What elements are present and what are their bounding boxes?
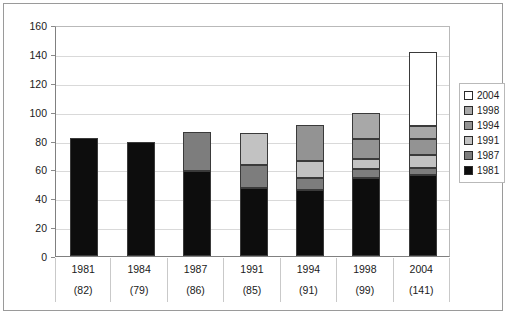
- bar-segment-1991[interactable]: [240, 133, 268, 165]
- plot-area: [55, 26, 450, 257]
- y-axis-tick-label: 80: [13, 137, 47, 148]
- y-axis-tick-label: 0: [13, 252, 47, 263]
- bar-column[interactable]: [296, 25, 324, 256]
- legend-swatch-icon: [464, 166, 473, 175]
- y-axis-tick-label: 140: [13, 50, 47, 61]
- y-axis-tick-label: 20: [13, 223, 47, 234]
- legend-label: 1994: [477, 121, 499, 131]
- x-axis-category-table: 1981(82)1984(79)1987(86)1991(85)1994(91)…: [55, 258, 451, 302]
- bar-segment-1981[interactable]: [296, 190, 324, 256]
- y-axis-tick-label: 120: [13, 79, 47, 90]
- bar-column[interactable]: [240, 25, 268, 256]
- legend-label: 2004: [477, 91, 499, 101]
- legend-swatch-icon: [464, 121, 473, 130]
- bar-segment-1994[interactable]: [296, 125, 324, 161]
- legend-label: 1987: [477, 151, 499, 161]
- y-axis-tick-label: 160: [13, 21, 47, 32]
- bar-segment-1987[interactable]: [240, 165, 268, 188]
- chart-frame: 020406080100120140160 1981(82)1984(79)19…: [3, 3, 503, 311]
- bar-segment-1991[interactable]: [409, 155, 437, 168]
- x-axis-category-cell: 1984(79): [111, 258, 167, 302]
- bar-segment-1998[interactable]: [352, 113, 380, 139]
- x-axis-category-cell: 1994(91): [281, 258, 337, 302]
- bar-segment-1981[interactable]: [70, 138, 98, 256]
- bar-column[interactable]: [127, 25, 155, 256]
- bar-segment-1981[interactable]: [183, 171, 211, 256]
- bar-segment-1981[interactable]: [127, 142, 155, 256]
- x-axis-total-label: (85): [224, 284, 279, 296]
- bar-segment-1998[interactable]: [409, 126, 437, 139]
- x-axis-total-label: (82): [56, 284, 110, 296]
- bar-column[interactable]: [409, 25, 437, 256]
- x-axis-total-label: (141): [394, 284, 449, 296]
- bar-segment-2004[interactable]: [409, 52, 437, 126]
- y-axis-tick-label: 60: [13, 165, 47, 176]
- bar-segment-1991[interactable]: [296, 161, 324, 178]
- legend-item-2004[interactable]: 2004: [464, 88, 501, 103]
- bar-column[interactable]: [70, 25, 98, 256]
- bar-segment-1981[interactable]: [352, 178, 380, 256]
- x-axis-total-label: (99): [337, 284, 392, 296]
- chart-legend: 200419981994199119871981: [459, 83, 505, 183]
- bar-column[interactable]: [183, 25, 211, 256]
- x-axis-category-cell: 1991(85): [224, 258, 280, 302]
- bar-segment-1987[interactable]: [183, 132, 211, 171]
- x-axis-total-label: (79): [111, 284, 166, 296]
- legend-swatch-icon: [464, 91, 473, 100]
- bar-segment-1981[interactable]: [240, 188, 268, 256]
- legend-item-1994[interactable]: 1994: [464, 118, 501, 133]
- legend-swatch-icon: [464, 136, 473, 145]
- legend-swatch-icon: [464, 106, 473, 115]
- x-axis-year-label: 1998: [337, 263, 392, 275]
- legend-item-1987[interactable]: 1987: [464, 148, 501, 163]
- legend-swatch-icon: [464, 151, 473, 160]
- legend-label: 1991: [477, 136, 499, 146]
- bar-segment-1994[interactable]: [409, 139, 437, 155]
- legend-item-1981[interactable]: 1981: [464, 163, 501, 178]
- y-axis-tick-label: 40: [13, 194, 47, 205]
- legend-item-1998[interactable]: 1998: [464, 103, 501, 118]
- bar-segment-1991[interactable]: [352, 159, 380, 169]
- x-axis-category-cell: 1998(99): [337, 258, 393, 302]
- bar-segment-1994[interactable]: [352, 139, 380, 159]
- bar-segment-1987[interactable]: [409, 168, 437, 175]
- legend-item-1991[interactable]: 1991: [464, 133, 501, 148]
- x-axis-year-label: 1987: [168, 263, 223, 275]
- legend-label: 1981: [477, 166, 499, 176]
- x-axis-year-label: 1981: [56, 263, 110, 275]
- y-axis-tick-label: 100: [13, 108, 47, 119]
- x-axis-year-label: 1984: [111, 263, 166, 275]
- x-axis-total-label: (91): [281, 284, 336, 296]
- bar-segment-1987[interactable]: [296, 178, 324, 190]
- bar-column[interactable]: [352, 25, 380, 256]
- x-axis-category-cell: 2004(141): [394, 258, 450, 302]
- legend-label: 1998: [477, 106, 499, 116]
- x-axis-year-label: 2004: [394, 263, 449, 275]
- bar-segment-1981[interactable]: [409, 175, 437, 256]
- x-axis-year-label: 1991: [224, 263, 279, 275]
- bar-segment-1987[interactable]: [352, 169, 380, 178]
- x-axis-category-cell: 1987(86): [168, 258, 224, 302]
- x-axis-year-label: 1994: [281, 263, 336, 275]
- x-axis-total-label: (86): [168, 284, 223, 296]
- x-axis-category-cell: 1981(82): [55, 258, 111, 302]
